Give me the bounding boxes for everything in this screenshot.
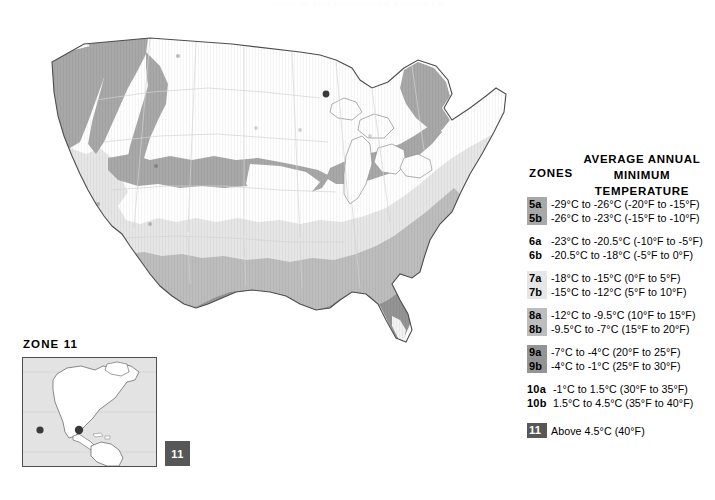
legend: ZONES AVERAGE ANNUAL MINIMUM TEMPERATURE… — [520, 148, 715, 438]
legend-group-11: 11 Above 4.5°C (40°F) — [520, 423, 715, 438]
inset-world-map-svg — [23, 358, 156, 466]
legend-zone-label-8b: 8b — [529, 322, 547, 336]
legend-zone-text-8a: -12°C to -9.5°C (10°F to 15°F) — [551, 309, 696, 321]
legend-group-5: 5a -29°C to -26°C (-20°F to -15°F) 5b -2… — [520, 197, 715, 225]
legend-row-5a[interactable]: 5a -29°C to -26°C (-20°F to -15°F) — [551, 197, 715, 211]
legend-row-7a[interactable]: 7a -18°C to -15°C (0°F to 5°F) — [551, 271, 715, 285]
legend-row-10a[interactable]: 10a -1°C to 1.5°C (30°F to 35°F) — [553, 382, 715, 396]
legend-group-6: 6a -23°C to -20.5°C (-10°F to -5°F) 6b -… — [520, 234, 715, 262]
inset-title: ZONE 11 — [23, 338, 190, 350]
legend-header: ZONES AVERAGE ANNUAL MINIMUM TEMPERATURE — [520, 148, 715, 188]
legend-row-6b[interactable]: 6b -20.5°C to -18°C (-5°F to 0°F) — [551, 248, 715, 262]
legend-zone-label-9b: 9b — [529, 359, 547, 373]
legend-row-8a[interactable]: 8a -12°C to -9.5°C (10°F to 15°F) — [551, 308, 715, 322]
legend-zone-text-7a: -18°C to -15°C (0°F to 5°F) — [551, 272, 681, 284]
legend-group-10: 10a -1°C to 1.5°C (30°F to 35°F) 10b 1.5… — [520, 382, 715, 410]
legend-row-9b[interactable]: 9b -4°C to -1°C (25°F to 30°F) — [551, 359, 715, 373]
legend-group-8: 8a -12°C to -9.5°C (10°F to 15°F) 8b -9.… — [520, 308, 715, 336]
zone-11-inset: ZONE 11 — [20, 338, 190, 473]
legend-row-7b[interactable]: 7b -15°C to -12°C (5°F to 10°F) — [551, 285, 715, 299]
legend-zone-label-5a: 5a — [529, 197, 547, 211]
legend-group-9: 9a -7°C to -4°C (20°F to 25°F) 9b -4°C t… — [520, 345, 715, 373]
us-map-svg — [0, 8, 520, 353]
legend-zone-label-7b: 7b — [529, 285, 547, 299]
legend-row-6a[interactable]: 6a -23°C to -20.5°C (-10°F to -5°F) — [551, 234, 715, 248]
page-title: USDA PLANT HARDINESS ZONE MAP — [0, 0, 715, 6]
legend-zone-label-8a: 8a — [529, 308, 547, 322]
legend-zone-label-11: 11 — [529, 423, 547, 437]
legend-zone-text-10a: -1°C to 1.5°C (30°F to 35°F) — [553, 383, 688, 395]
legend-zone-text-9a: -7°C to -4°C (20°F to 25°F) — [551, 346, 681, 358]
legend-zone-text-5b: -26°C to -23°C (-15°F to -10°F) — [551, 212, 700, 224]
legend-row-11[interactable]: 11 Above 4.5°C (40°F) — [551, 423, 715, 438]
legend-zone-text-11: Above 4.5°C (40°F) — [551, 425, 645, 437]
inset-map-box — [22, 357, 157, 467]
legend-zone-label-7a: 7a — [529, 271, 547, 285]
legend-row-10b[interactable]: 10b 1.5°C to 4.5°C (35°F to 40°F) — [553, 396, 715, 410]
legend-zone-text-6a: -23°C to -20.5°C (-10°F to -5°F) — [551, 235, 703, 247]
inset-zone-11-chip: 11 — [165, 441, 190, 466]
legend-temperature-heading: AVERAGE ANNUAL MINIMUM TEMPERATURE — [568, 151, 715, 199]
legend-row-5b[interactable]: 5b -26°C to -23°C (-15°F to -10°F) — [551, 211, 715, 225]
legend-group-7: 7a -18°C to -15°C (0°F to 5°F) 7b -15°C … — [520, 271, 715, 299]
legend-zones-heading: ZONES — [529, 167, 573, 179]
legend-temp-heading-line2: MINIMUM TEMPERATURE — [568, 167, 715, 199]
legend-zone-label-6b: 6b — [529, 248, 547, 262]
legend-zone-text-10b: 1.5°C to 4.5°C (35°F to 40°F) — [553, 397, 693, 409]
legend-row-9a[interactable]: 9a -7°C to -4°C (20°F to 25°F) — [551, 345, 715, 359]
legend-zone-label-10b: 10b — [527, 396, 549, 410]
main-map — [0, 8, 520, 353]
legend-temp-heading-line1: AVERAGE ANNUAL — [568, 151, 715, 167]
legend-zone-text-9b: -4°C to -1°C (25°F to 30°F) — [551, 360, 681, 372]
legend-row-8b[interactable]: 8b -9.5°C to -7°C (15°F to 20°F) — [551, 322, 715, 336]
legend-zone-label-9a: 9a — [529, 345, 547, 359]
zone-bands — [0, 8, 520, 353]
legend-zone-text-7b: -15°C to -12°C (5°F to 10°F) — [551, 286, 687, 298]
legend-zone-text-6b: -20.5°C to -18°C (-5°F to 0°F) — [551, 249, 693, 261]
legend-zone-text-5a: -29°C to -26°C (-20°F to -15°F) — [551, 198, 700, 210]
legend-zone-label-5b: 5b — [529, 211, 547, 225]
legend-zone-label-10a: 10a — [527, 382, 549, 396]
legend-zone-label-6a: 6a — [529, 234, 547, 248]
legend-zone-text-8b: -9.5°C to -7°C (15°F to 20°F) — [551, 323, 690, 335]
hardiness-zone-map-page: USDA PLANT HARDINESS ZONE MAP — [0, 0, 715, 500]
